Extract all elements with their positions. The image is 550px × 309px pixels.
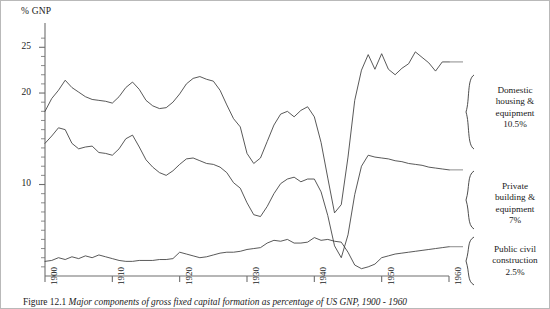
x-tick-label-1940: 1940 (318, 267, 328, 285)
brace-2 (466, 237, 474, 285)
series-annotation-private-building: Private building & equipment 7% (481, 181, 549, 227)
series-line-public-civil-construction (45, 238, 449, 269)
annotation-value: 2.5% (477, 267, 550, 278)
caption-text: Major components of gross fixed capital … (69, 297, 407, 307)
plot-svg (1, 1, 550, 309)
plot-area (1, 1, 550, 309)
figure-page: % GNP 25 20 10 1900 1910 1920 1930 1940 … (0, 0, 550, 309)
x-tick-label-1910: 1910 (116, 267, 126, 285)
annotation-line-1: Public civil (477, 244, 550, 255)
annotation-line-1: Domestic (481, 85, 549, 96)
series-line-domestic-housing-equipment (45, 52, 449, 213)
annotation-value: 10.5% (481, 119, 549, 130)
annotation-line-3: equipment (481, 108, 549, 119)
annotation-line-2: construction (477, 255, 550, 266)
caption-number: Figure 12.1 (23, 297, 66, 307)
x-tick-label-1900: 1900 (49, 267, 59, 285)
annotation-line-3: equipment (481, 204, 549, 215)
annotation-line-2: building & (481, 192, 549, 203)
x-tick-label-1950: 1950 (386, 267, 396, 285)
x-tick-label-1920: 1920 (184, 267, 194, 285)
brace-1 (466, 171, 474, 229)
annotation-value: 7% (481, 215, 549, 226)
brace-0 (466, 75, 474, 149)
series-annotation-public-civil: Public civil construction 2.5% (477, 244, 550, 278)
x-tick-label-1930: 1930 (251, 267, 261, 285)
x-tick-label-1960: 1960 (453, 267, 463, 285)
chart-figure: % GNP 25 20 10 1900 1910 1920 1930 1940 … (1, 1, 550, 309)
figure-caption: Figure 12.1 Major components of gross fi… (23, 297, 543, 307)
annotation-line-1: Private (481, 181, 549, 192)
series-line-private-building-equipment (45, 128, 449, 258)
annotation-line-2: housing & (481, 96, 549, 107)
series-annotation-domestic-housing: Domestic housing & equipment 10.5% (481, 85, 549, 131)
